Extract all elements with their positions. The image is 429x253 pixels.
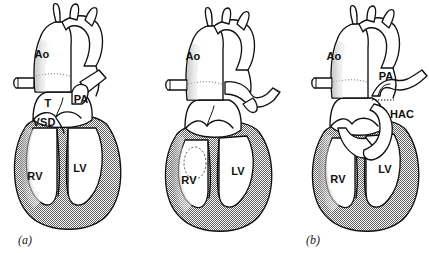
label-pulmonary-artery-a: PA	[74, 93, 89, 105]
right-pulmonary-artery-b	[166, 80, 187, 90]
label-truncus-a: T	[45, 97, 52, 109]
label-right-ventricle-c: RV	[330, 173, 346, 185]
right-pulmonary-artery-a	[14, 78, 34, 88]
label-right-ventricle-b: RV	[181, 174, 197, 186]
right-pulmonary-artery-c	[312, 78, 332, 88]
panel-c: Ao PA HAC RV LV (c)	[286, 0, 429, 253]
label-vsd-a: VSD	[33, 116, 56, 128]
panel-b: Ao RV LV (b)	[143, 0, 286, 253]
brachiocephalic-branch-1-a	[53, 4, 60, 22]
brachiocephalic-branch-1-b	[205, 8, 212, 26]
label-left-ventricle-b: LV	[231, 165, 245, 177]
label-aorta-b: Ao	[186, 50, 201, 62]
brachiocephalic-branch-2-a	[70, 4, 79, 20]
cardiac-repair-figure: Ao T PA VSD RV LV (a)	[0, 0, 429, 253]
panel-a: Ao T PA VSD RV LV (a)	[0, 0, 143, 253]
neoaortic-root-b	[185, 100, 241, 137]
panel-a-illustration: Ao T PA VSD RV LV	[0, 0, 143, 253]
panel-caption-a: (a)	[18, 233, 32, 248]
label-aorta-c: Ao	[327, 50, 342, 62]
panel-c-illustration: Ao PA HAC RV LV	[286, 0, 429, 253]
label-hac-c: HAC	[390, 108, 414, 120]
label-left-ventricle-c: LV	[378, 163, 392, 175]
brachiocephalic-branch-2-c	[367, 6, 376, 22]
label-pulmonary-artery-c: PA	[379, 70, 394, 82]
brachiocephalic-branch-1-c	[350, 6, 357, 24]
label-left-ventricle-a: LV	[73, 162, 87, 174]
brachiocephalic-branch-2-b	[222, 8, 231, 24]
label-aorta-a: Ao	[35, 48, 50, 60]
label-right-ventricle-a: RV	[27, 170, 43, 182]
panel-b-illustration: Ao RV LV	[143, 0, 286, 253]
